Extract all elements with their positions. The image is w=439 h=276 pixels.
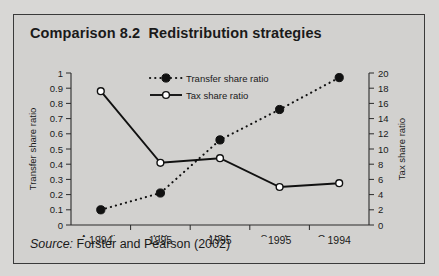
right-tick-label: 10 bbox=[378, 144, 389, 155]
data-point-transfer-uk bbox=[156, 189, 164, 197]
right-tick-label: 4 bbox=[378, 189, 383, 200]
left-tick-label: 0.9 bbox=[50, 83, 63, 94]
left-tick-label: 0.5 bbox=[50, 144, 63, 155]
page-title: Comparison 8.2 Redistribution strategies bbox=[30, 25, 322, 41]
source-note: Source: Forster and Pearson (2002) bbox=[30, 237, 230, 251]
left-tick-label: 0.1 bbox=[50, 204, 63, 215]
data-point-tax-usa bbox=[217, 155, 224, 162]
legend-item-transfer-share-ratio: Transfer share ratio bbox=[150, 73, 269, 84]
data-point-transfer-australia bbox=[97, 206, 105, 214]
left-axis: 1 0.9 0.8 0.7 0.6 0.5 0.4 0.3 0.2 0.1 0 … bbox=[27, 68, 71, 231]
source-citation: Forster and Pearson (2002) bbox=[73, 237, 230, 251]
right-axis: 20 18 16 14 12 10 8 6 4 2 0 Tax share ra… bbox=[369, 68, 407, 231]
category-year: 1994 bbox=[328, 234, 352, 246]
data-point-tax-germany bbox=[336, 180, 343, 187]
chart-legend: Transfer share ratio Tax share ratio bbox=[150, 73, 269, 101]
right-tick-label: 18 bbox=[378, 83, 389, 94]
data-point-tax-sweden bbox=[276, 184, 283, 191]
right-tick-label: 16 bbox=[378, 98, 389, 109]
left-tick-label: 0.4 bbox=[50, 159, 63, 170]
data-point-transfer-sweden bbox=[276, 105, 284, 113]
chart-plot-area: 1 0.9 0.8 0.7 0.6 0.5 0.4 0.3 0.2 0.1 0 … bbox=[14, 47, 426, 237]
right-tick-label: 0 bbox=[378, 220, 383, 231]
legend-label-tax: Tax share ratio bbox=[186, 90, 248, 101]
legend-filled-circle-icon bbox=[162, 74, 170, 82]
source-label: Source: bbox=[30, 237, 73, 251]
right-tick-label: 20 bbox=[378, 68, 389, 79]
right-tick-label: 14 bbox=[378, 113, 389, 124]
left-tick-label: 0.7 bbox=[50, 113, 63, 124]
data-point-transfer-usa bbox=[216, 136, 224, 144]
data-point-tax-australia bbox=[97, 88, 104, 95]
left-tick-label: 0.3 bbox=[50, 174, 63, 185]
screenshot-root: Comparison 8.2 Redistribution strategies bbox=[0, 0, 439, 276]
left-tick-label: 0.8 bbox=[50, 98, 63, 109]
right-tick-label: 8 bbox=[378, 159, 383, 170]
right-tick-label: 12 bbox=[378, 128, 389, 139]
x-axis bbox=[71, 225, 369, 230]
data-point-tax-uk bbox=[157, 159, 164, 166]
right-tick-label: 6 bbox=[378, 174, 383, 185]
left-axis-title: Transfer share ratio bbox=[27, 108, 38, 191]
legend-item-tax-share-ratio: Tax share ratio bbox=[150, 90, 248, 101]
category-year: 1995 bbox=[268, 234, 292, 246]
left-tick-label: 0.2 bbox=[50, 189, 63, 200]
right-axis-title: Tax share ratio bbox=[396, 118, 407, 180]
legend-hollow-circle-icon bbox=[163, 92, 170, 99]
left-tick-label: 0.6 bbox=[50, 128, 63, 139]
left-tick-label: 0 bbox=[58, 220, 63, 231]
figure-box: Comparison 8.2 Redistribution strategies bbox=[13, 14, 425, 264]
right-tick-label: 2 bbox=[378, 204, 383, 215]
data-point-transfer-germany bbox=[335, 74, 343, 82]
legend-label-transfer: Transfer share ratio bbox=[186, 73, 269, 84]
left-tick-label: 1 bbox=[58, 68, 63, 79]
line-chart: 1 0.9 0.8 0.7 0.6 0.5 0.4 0.3 0.2 0.1 0 … bbox=[14, 47, 426, 237]
